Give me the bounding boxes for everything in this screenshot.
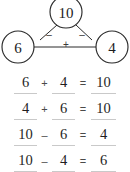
equation-term-a[interactable]: 10 <box>14 151 37 172</box>
equation-term-b[interactable]: 4 <box>52 73 75 94</box>
equation-term-a[interactable]: 10 <box>14 125 37 146</box>
equation-term-result[interactable]: 6 <box>91 151 116 172</box>
equation-term-a[interactable]: 4 <box>14 99 37 120</box>
equation-operator: – <box>37 152 52 172</box>
worksheet-page: { "diagram": { "name": "number-bond-tria… <box>0 0 130 172</box>
equation-row: 6 + 4 = 10 <box>0 68 130 94</box>
equation-term-result[interactable]: 10 <box>91 73 116 94</box>
equation-equals-sign: = <box>75 74 91 94</box>
equation-term-result[interactable]: 4 <box>91 125 116 146</box>
equation-operator: – <box>37 126 52 146</box>
bond-operator-left: – <box>46 29 52 40</box>
bond-value-part-right: 4 <box>108 40 116 56</box>
bond-operator-bottom: + <box>63 39 69 50</box>
equation-operator: + <box>37 74 52 94</box>
bond-operator-right: – <box>79 29 85 40</box>
equation-term-b[interactable]: 6 <box>52 99 75 120</box>
equation-operator: + <box>37 100 52 120</box>
equation-list: 6 + 4 = 10 4 + 6 = 10 10 – 6 = 4 10 – 4 … <box>0 68 130 172</box>
bond-value-part-left: 6 <box>14 40 22 56</box>
equation-row: 10 – 6 = 4 <box>0 120 130 146</box>
equation-equals-sign: = <box>75 152 91 172</box>
equation-row: 10 – 4 = 6 <box>0 146 130 172</box>
equation-equals-sign: = <box>75 100 91 120</box>
equation-row: 4 + 6 = 10 <box>0 94 130 120</box>
equation-term-a[interactable]: 6 <box>14 73 37 94</box>
equation-equals-sign: = <box>75 126 91 146</box>
equation-term-b[interactable]: 6 <box>52 125 75 146</box>
equation-term-b[interactable]: 4 <box>52 151 75 172</box>
equation-term-result[interactable]: 10 <box>91 99 116 120</box>
number-bond-diagram: 10 6 4 – – + <box>0 0 130 66</box>
bond-value-whole: 10 <box>59 5 74 21</box>
